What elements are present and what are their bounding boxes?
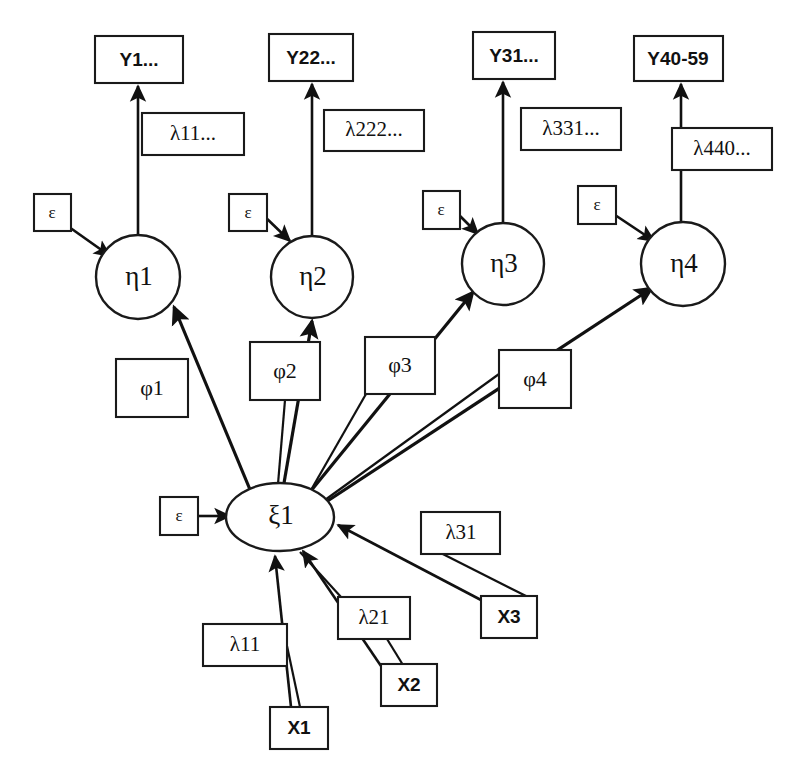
node-y40-59-label: Y40-59 [647, 48, 708, 69]
node-y22[interactable]: Y22... [269, 34, 353, 81]
node-lambda331-dots[interactable]: λ331... [521, 108, 621, 150]
node-phi2-label: φ2 [273, 358, 297, 383]
node-x3[interactable]: X3 [481, 596, 537, 638]
node-phi3-label: φ3 [388, 352, 412, 377]
node-lambda222-dots[interactable]: λ222... [324, 110, 424, 151]
error-eta-group: ε ε ε ε [34, 186, 616, 231]
node-lambda11-label: λ11 [230, 632, 260, 656]
tie-phi2-xi1 [278, 400, 285, 484]
node-eta4[interactable]: η4 [641, 222, 725, 306]
node-epsilon-eta4[interactable]: ε [578, 186, 616, 224]
loading-y-group: λ11... λ222... λ331... λ440... [142, 108, 772, 170]
node-lambda11[interactable]: λ11 [203, 624, 287, 666]
node-eta2[interactable]: η2 [271, 236, 353, 318]
node-lambda21[interactable]: λ21 [338, 597, 410, 639]
node-xi1-label: ξ1 [268, 500, 294, 530]
node-y31-label: Y31... [489, 45, 539, 66]
node-lambda11-dots[interactable]: λ11... [142, 113, 244, 155]
node-epsilon-eta2-label: ε [244, 203, 251, 222]
node-phi1[interactable]: φ1 [116, 359, 188, 417]
node-eta1-label: η1 [125, 261, 153, 291]
node-epsilon-eta3[interactable]: ε [423, 191, 460, 229]
diagram-canvas: Y1... Y22... Y31... Y40-59 λ11... λ222..… [0, 0, 800, 774]
node-x1-label: X1 [287, 717, 311, 738]
path-phi-group: φ1 φ2 φ3 φ4 [116, 337, 571, 417]
tie-lam21-x2 [387, 639, 403, 665]
node-lambda440-dots[interactable]: λ440... [672, 128, 772, 170]
node-epsilon-xi1[interactable]: ε [160, 497, 198, 535]
node-epsilon-xi1-label: ε [175, 506, 182, 525]
latent-xi-group: ε ξ1 [160, 483, 334, 551]
node-y1[interactable]: Y1... [95, 36, 183, 83]
node-epsilon-eta3-label: ε [437, 200, 444, 219]
node-lambda440-dots-label: λ440... [693, 136, 750, 160]
edge-eps4-eta4 [612, 213, 654, 241]
node-eta1[interactable]: η1 [96, 235, 180, 319]
node-lambda31-label: λ31 [445, 520, 476, 544]
indicator-y-group: Y1... Y22... Y31... Y40-59 [95, 32, 723, 83]
node-x3-label: X3 [497, 606, 520, 627]
node-phi3[interactable]: φ3 [365, 337, 435, 394]
node-eta2-label: η2 [299, 261, 327, 291]
node-x1[interactable]: X1 [270, 707, 328, 749]
node-eta4-label: η4 [670, 248, 698, 278]
node-lambda31[interactable]: λ31 [421, 512, 500, 554]
node-x2-label: X2 [397, 674, 420, 695]
node-phi1-label: φ1 [140, 375, 164, 400]
node-lambda11-dots-label: λ11... [170, 121, 216, 145]
node-y22-label: Y22... [286, 47, 336, 68]
node-epsilon-eta1-label: ε [48, 203, 55, 222]
node-x2[interactable]: X2 [381, 664, 437, 706]
node-lambda222-dots-label: λ222... [345, 117, 402, 141]
node-xi1[interactable]: ξ1 [226, 483, 334, 551]
sem-path-diagram: Y1... Y22... Y31... Y40-59 λ11... λ222..… [0, 0, 800, 774]
node-lambda21-label: λ21 [358, 605, 389, 629]
node-phi2[interactable]: φ2 [250, 342, 320, 400]
node-y1-label: Y1... [119, 49, 158, 70]
node-epsilon-eta2[interactable]: ε [229, 194, 267, 231]
node-epsilon-eta4-label: ε [593, 195, 600, 214]
node-y31[interactable]: Y31... [473, 32, 555, 79]
node-y40-59[interactable]: Y40-59 [634, 36, 723, 81]
node-epsilon-eta1[interactable]: ε [34, 194, 71, 231]
latent-eta-group: η1 η2 η3 η4 [96, 222, 725, 319]
node-eta3[interactable]: η3 [462, 223, 544, 305]
node-phi4[interactable]: φ4 [499, 350, 571, 408]
node-lambda331-dots-label: λ331... [542, 116, 599, 140]
node-eta3-label: η3 [490, 248, 518, 278]
tie-lam21-xi1 [300, 552, 341, 597]
node-phi4-label: φ4 [523, 366, 547, 391]
